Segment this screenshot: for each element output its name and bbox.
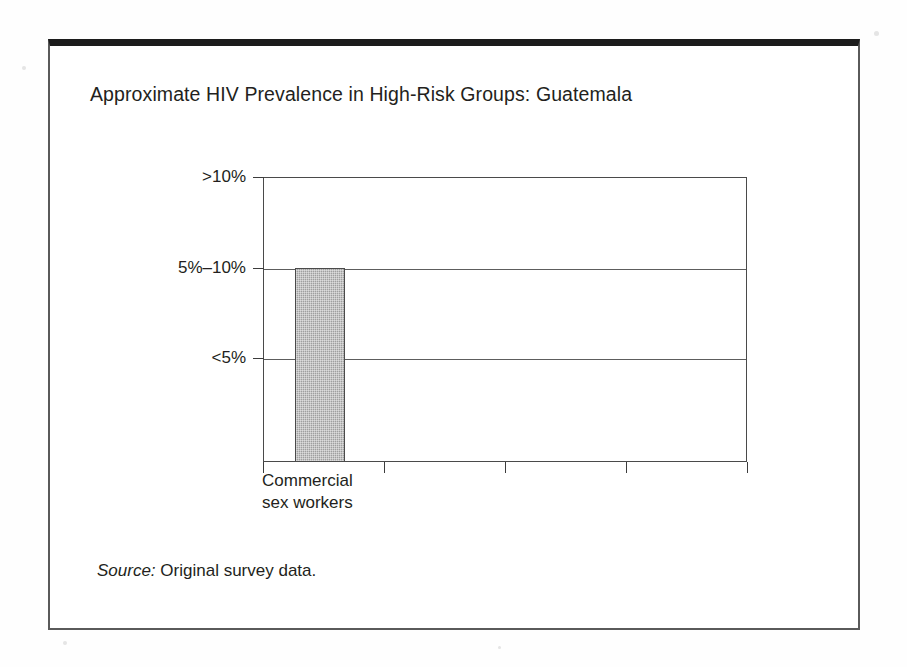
x-axis-label-commercial-sex-workers: Commercial sex workers bbox=[262, 470, 353, 514]
source-label: Source: bbox=[97, 561, 156, 580]
page-title: Approximate HIV Prevalence in High-Risk … bbox=[90, 83, 632, 106]
source-note: Source: Original survey data. bbox=[97, 561, 316, 581]
y-axis-tick-over-10-percent bbox=[253, 177, 264, 178]
y-axis-label-under-5-percent: <5% bbox=[148, 348, 246, 368]
y-axis-label-5-10-percent: 5%–10% bbox=[148, 258, 246, 278]
x-axis-label-line-1: Commercial bbox=[262, 471, 353, 490]
y-axis-label-over-10-percent: >10% bbox=[148, 167, 246, 187]
source-text: Original survey data. bbox=[160, 561, 316, 580]
bar-commercial-sex-workers bbox=[295, 268, 345, 462]
x-axis-tick-1 bbox=[384, 462, 385, 473]
x-axis-tick-4 bbox=[747, 462, 748, 473]
x-axis-tick-3 bbox=[626, 462, 627, 473]
y-axis-tick-5-10-percent bbox=[253, 268, 264, 269]
y-axis-tick-under-5-percent bbox=[253, 358, 264, 359]
x-axis-label-line-2: sex workers bbox=[262, 493, 353, 512]
x-axis-tick-2 bbox=[505, 462, 506, 473]
